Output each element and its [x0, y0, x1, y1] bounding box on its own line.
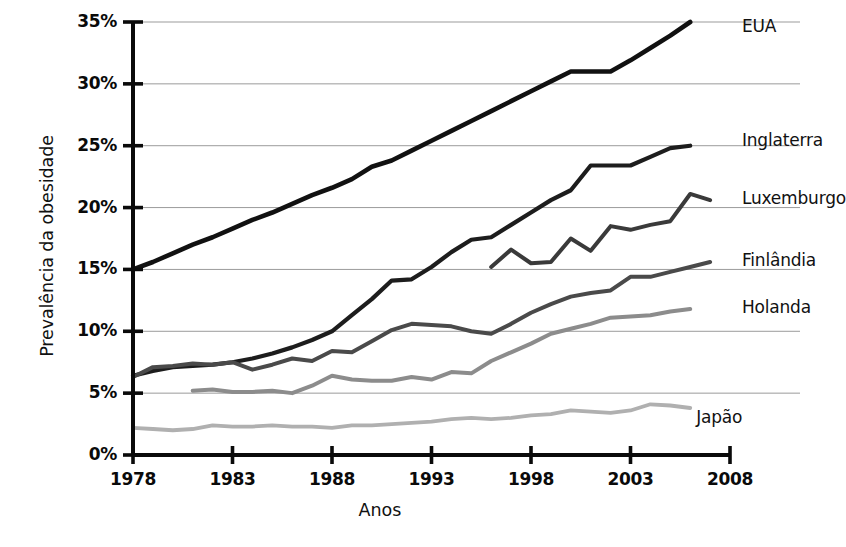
x-tick-label: 2003 [591, 469, 671, 489]
series-label-japo: Japão [696, 407, 742, 427]
y-tick-label: 25% [47, 135, 117, 155]
x-tick-label: 1998 [491, 469, 571, 489]
y-tick-label: 30% [47, 73, 117, 93]
y-tick-label: 20% [47, 197, 117, 217]
series-line-finlndia [133, 262, 710, 377]
series-line-holanda [193, 309, 691, 393]
y-tick-label: 5% [47, 382, 117, 402]
x-tick-label: 1988 [292, 469, 372, 489]
series-label-eua: EUA [742, 16, 776, 36]
y-tick-label: 10% [47, 320, 117, 340]
series-line-japo [133, 404, 690, 430]
series-label-luxemburgo: Luxemburgo [742, 188, 846, 208]
y-tick-label: 35% [47, 11, 117, 31]
series-label-holanda: Holanda [742, 297, 811, 317]
series-line-inglaterra [133, 146, 690, 376]
series-label-inglaterra: Inglaterra [742, 130, 823, 150]
y-tick-label: 15% [47, 258, 117, 278]
x-tick-label: 1993 [392, 469, 472, 489]
x-tick-label: 1983 [193, 469, 273, 489]
series-label-finlndia: Finlândia [742, 250, 816, 270]
series-line-luxemburgo [491, 194, 710, 267]
x-tick-label: 1978 [93, 469, 173, 489]
x-tick-label: 2008 [690, 469, 770, 489]
y-tick-label: 0% [47, 444, 117, 464]
